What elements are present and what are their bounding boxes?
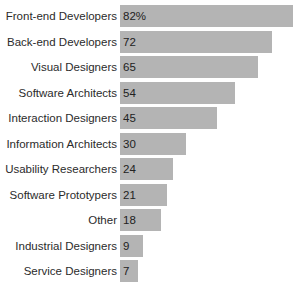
category-label: Other [0, 209, 120, 231]
bar-value-label: 65 [120, 56, 136, 78]
chart-row: Service Designers7 [0, 260, 304, 282]
chart-row: Software Prototypers21 [0, 184, 304, 206]
bar-track: 18 [120, 209, 304, 231]
category-label: Industrial Designers [0, 235, 120, 257]
bar-track: 45 [120, 107, 304, 129]
bar: 21 [120, 184, 167, 206]
bar-value-label: 72 [120, 31, 136, 53]
chart-row: Information Architects30 [0, 133, 304, 155]
bar: 24 [120, 158, 173, 180]
bar: 54 [120, 82, 235, 104]
bar-value-label: 9 [120, 235, 129, 257]
bar: 7 [120, 260, 138, 282]
bar: 82% [120, 5, 293, 27]
category-label: Software Prototypers [0, 184, 120, 206]
chart-row: Usability Researchers24 [0, 158, 304, 180]
bar-track: 30 [120, 133, 304, 155]
bar: 18 [120, 209, 161, 231]
bar-track: 7 [120, 260, 304, 282]
bar-track: 65 [120, 56, 304, 78]
category-label: Information Architects [0, 133, 120, 155]
category-label: Front-end Developers [0, 5, 120, 27]
chart-row: Front-end Developers82% [0, 5, 304, 27]
bar-value-label: 21 [120, 184, 136, 206]
bar: 72 [120, 31, 272, 53]
category-label: Service Designers [0, 260, 120, 282]
bar-value-label: 30 [120, 133, 136, 155]
bar-track: 9 [120, 235, 304, 257]
bar: 30 [120, 133, 186, 155]
bar-value-label: 82% [120, 5, 146, 27]
bar-track: 21 [120, 184, 304, 206]
bar-track: 82% [120, 5, 304, 27]
bar-track: 24 [120, 158, 304, 180]
category-label: Interaction Designers [0, 107, 120, 129]
bar-value-label: 7 [120, 260, 129, 282]
bar: 9 [120, 235, 143, 257]
chart-rows: Front-end Developers82%Back-end Develope… [0, 5, 304, 282]
chart-row: Visual Designers65 [0, 56, 304, 78]
bar-track: 54 [120, 82, 304, 104]
chart-row: Industrial Designers9 [0, 235, 304, 257]
chart-row: Other18 [0, 209, 304, 231]
category-label: Visual Designers [0, 56, 120, 78]
bar: 45 [120, 107, 217, 129]
bar-value-label: 18 [120, 209, 136, 231]
category-label: Usability Researchers [0, 158, 120, 180]
category-label: Software Architects [0, 82, 120, 104]
category-label: Back-end Developers [0, 31, 120, 53]
bar-value-label: 54 [120, 82, 136, 104]
bar-track: 72 [120, 31, 304, 53]
chart-row: Back-end Developers72 [0, 31, 304, 53]
chart-row: Software Architects54 [0, 82, 304, 104]
bar-value-label: 45 [120, 107, 136, 129]
bar: 65 [120, 56, 258, 78]
chart-row: Interaction Designers45 [0, 107, 304, 129]
horizontal-bar-chart: Front-end Developers82%Back-end Develope… [0, 0, 304, 293]
bar-value-label: 24 [120, 158, 136, 180]
